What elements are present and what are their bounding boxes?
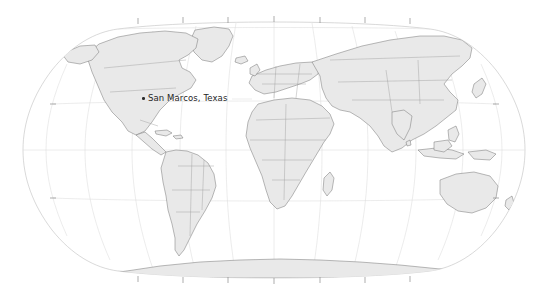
map-marker-dot[interactable] [142,97,145,100]
map-marker-label: San Marcos, Texas [148,94,227,103]
world-map-canvas [0,0,549,296]
world-map-figure: San Marcos, Texas [0,0,549,296]
